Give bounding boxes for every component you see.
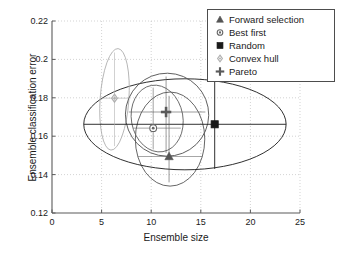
x-tick-label: 10: [146, 217, 156, 227]
x-tick-label: 20: [245, 217, 255, 227]
chart-legend: Forward selectionBest firstRandomConvex …: [207, 9, 335, 82]
triangle-icon: [211, 13, 229, 26]
plus-icon: [211, 65, 229, 78]
legend-item-plus[interactable]: Pareto: [211, 65, 330, 78]
legend-item-diamond[interactable]: Convex hull: [211, 52, 330, 65]
chart-figure: 0.120.140.160.180.20.22 0510152025 Ensem…: [0, 0, 339, 257]
x-axis-label: Ensemble size: [52, 232, 300, 243]
legend-item-square[interactable]: Random: [211, 39, 330, 52]
square-icon: [211, 39, 229, 52]
legend-item-triangle[interactable]: Forward selection: [211, 13, 330, 26]
legend-item-label: Pareto: [229, 66, 257, 77]
legend-item-circle[interactable]: Best first: [211, 26, 330, 39]
x-tick-label: 5: [99, 217, 104, 227]
legend-item-label: Convex hull: [229, 53, 279, 64]
legend-item-label: Forward selection: [229, 14, 304, 25]
diamond-icon: [211, 52, 229, 65]
x-tick-label: 0: [49, 217, 54, 227]
legend-item-label: Best first: [229, 27, 266, 38]
x-tick-label: 15: [196, 217, 206, 227]
x-tick-label: 25: [295, 217, 305, 227]
circle-icon: [211, 26, 229, 39]
legend-item-label: Random: [229, 40, 265, 51]
y-axis-label: Ensemble classification error: [27, 23, 38, 213]
